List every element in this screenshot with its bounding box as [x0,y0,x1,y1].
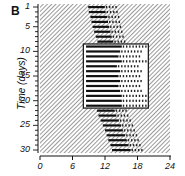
actogram-plot [0,0,185,176]
